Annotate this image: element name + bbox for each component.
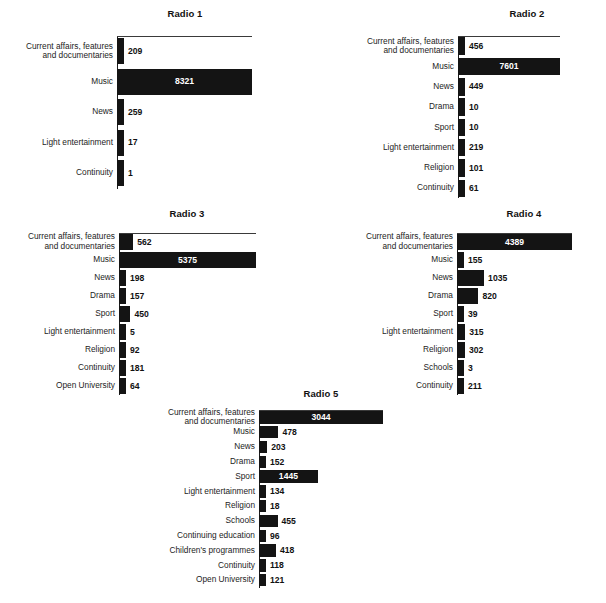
bar [457, 360, 464, 376]
bar-value-label: 219 [469, 143, 483, 152]
bar-value-label: 10 [469, 103, 479, 112]
bar [259, 500, 266, 513]
bar-value-label: 456 [469, 42, 483, 51]
bar-value-label: 3 [468, 364, 473, 373]
bar [259, 456, 266, 469]
value-axis-line [119, 233, 256, 234]
category-label: News [341, 273, 453, 283]
bar [119, 234, 133, 250]
category-label: Current affairs, features and documentar… [1, 42, 113, 61]
bar-value-label: 7601 [458, 62, 560, 71]
bar-value-label: 157 [130, 292, 144, 301]
bar [458, 119, 465, 137]
bar [119, 324, 126, 340]
bar-value-label: 61 [469, 184, 479, 193]
value-axis-line [458, 36, 560, 37]
category-label: Religion [141, 501, 255, 511]
category-label: Music [341, 255, 453, 265]
category-label: Current affairs, features and documentar… [342, 37, 454, 56]
bar-value-label: 92 [130, 346, 140, 355]
category-label: Continuity [342, 183, 454, 193]
bar-value-label: 418 [280, 546, 294, 555]
bar-value-label: 3044 [259, 413, 383, 422]
category-label: Continuity [1, 168, 113, 178]
bar [117, 99, 124, 125]
category-label: Open University [1, 381, 115, 391]
category-label: News [1, 107, 113, 117]
category-label: Schools [341, 363, 453, 373]
bar [458, 78, 465, 96]
bar-value-label: 302 [469, 346, 483, 355]
bar [117, 160, 124, 186]
category-label: Light entertainment [341, 327, 453, 337]
category-label: News [141, 442, 255, 452]
bar-value-label: 455 [282, 517, 296, 526]
bar-value-label: 18 [270, 502, 280, 511]
bar-value-label: 203 [271, 443, 285, 452]
bar-value-label: 478 [282, 428, 296, 437]
bar-value-label: 121 [270, 576, 284, 585]
bar [119, 342, 126, 358]
category-label: Religion [342, 163, 454, 173]
category-label: Light entertainment [1, 327, 115, 337]
category-label: News [342, 82, 454, 92]
bar [117, 130, 124, 156]
bar [457, 270, 484, 286]
bar-value-label: 10 [469, 123, 479, 132]
bar-value-label: 820 [482, 292, 496, 301]
category-label: Light entertainment [1, 138, 113, 148]
bar [259, 530, 266, 543]
bar [259, 426, 278, 439]
bar-value-label: 450 [134, 310, 148, 319]
bar-value-label: 64 [130, 382, 140, 391]
category-label: Light entertainment [342, 143, 454, 153]
chart-title: Radio 1 [125, 8, 245, 19]
bar [119, 288, 126, 304]
category-label: Drama [141, 457, 255, 467]
category-label: Open University [141, 575, 255, 585]
bar-value-label: 134 [270, 487, 284, 496]
chart-title: Radio 5 [261, 388, 381, 399]
bar [457, 252, 464, 268]
category-label: Sport [341, 309, 453, 319]
bar-value-label: 315 [469, 328, 483, 337]
category-label: Continuity [141, 561, 255, 571]
category-label: Religion [1, 345, 115, 355]
bar-value-label: 1035 [488, 274, 507, 283]
bar [259, 515, 278, 528]
category-label: Drama [1, 291, 115, 301]
bar-value-label: 209 [128, 47, 142, 56]
bar [457, 288, 478, 304]
bar-value-label: 1 [128, 169, 133, 178]
category-label: Current affairs, features and documentar… [141, 408, 255, 427]
bar-value-label: 96 [270, 532, 280, 541]
category-label: Music [1, 255, 115, 265]
bar [119, 270, 126, 286]
category-label: Current affairs, features and documentar… [1, 232, 115, 251]
category-label: Sport [1, 309, 115, 319]
bar-value-label: 5375 [119, 256, 256, 265]
category-label: Music [342, 62, 454, 72]
bar-value-label: 118 [270, 561, 284, 570]
bar [457, 378, 464, 394]
bar-value-label: 562 [137, 238, 151, 247]
bar [458, 139, 465, 157]
bar-value-label: 5 [130, 328, 135, 337]
bar [117, 38, 124, 64]
category-label: Drama [341, 291, 453, 301]
category-label: Religion [341, 345, 453, 355]
bar-value-label: 181 [130, 364, 144, 373]
bar [458, 180, 465, 198]
bar [259, 574, 266, 587]
bar [119, 378, 126, 394]
category-label: Sport [141, 472, 255, 482]
category-label: Current affairs, features and documentar… [341, 232, 453, 251]
bar-value-label: 39 [468, 310, 478, 319]
value-axis-line [117, 36, 252, 37]
category-label: Continuing education [141, 531, 255, 541]
bar [458, 37, 465, 55]
chart-title: Radio 4 [464, 208, 584, 219]
bar-value-label: 211 [468, 382, 482, 391]
bar [458, 98, 465, 116]
category-label: Drama [342, 102, 454, 112]
